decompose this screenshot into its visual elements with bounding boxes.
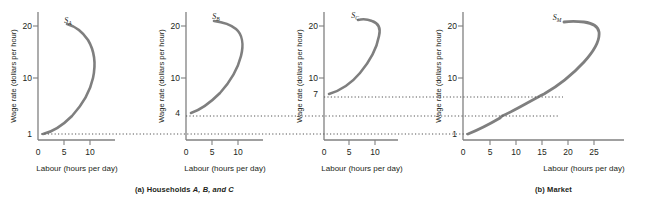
x-ticklabel-5: 5 <box>347 147 352 157</box>
y-ticklabel-4: 4 <box>175 108 180 118</box>
y-axis-title: Wage rate (dollars per hour) <box>9 29 18 123</box>
y-axis-title: Wage rate (dollars per hour) <box>434 29 443 123</box>
x-ticklabel-0: 0 <box>322 147 327 157</box>
x-ticklabel-10: 10 <box>370 147 380 157</box>
x-ticklabel-10: 10 <box>511 147 521 157</box>
panel-household-a: SA 20 10 1 0 5 10 Labour (hours per day)… <box>0 0 150 178</box>
y-ticklabel-20: 20 <box>23 21 33 31</box>
caption-a-prefix: (a) Households <box>135 185 193 194</box>
x-ticklabel-15: 15 <box>537 147 547 157</box>
y-ticklabel-10: 10 <box>448 73 458 83</box>
y-axis-title: Wage rate (dollars per hour) <box>295 29 304 123</box>
caption-panel-b: (b) Market <box>535 185 572 194</box>
caption-panel-a: (a) Households A, B, and C <box>135 185 234 194</box>
labour-supply-figure: SA 20 10 1 0 5 10 Labour (hours per day)… <box>0 0 647 208</box>
y-axis-title: Wage rate (dollars per hour) <box>157 29 166 123</box>
y-ticklabel-10: 10 <box>171 73 181 83</box>
x-axis-title: Labour (hours per day) <box>321 164 403 173</box>
x-ticklabel-5: 5 <box>210 147 215 157</box>
x-ticklabel-10: 10 <box>233 147 243 157</box>
x-ticklabel-5: 5 <box>488 147 493 157</box>
supply-curve-b <box>191 21 242 113</box>
axes-household-a <box>33 12 115 145</box>
axes-household-c <box>319 12 398 145</box>
curve-label-c: SC <box>351 11 359 21</box>
chart-household-b: SB 20 10 4 0 5 10 Labour (hours per day)… <box>150 0 288 178</box>
y-ticklabel-20: 20 <box>171 21 181 31</box>
supply-curve-a <box>43 24 94 134</box>
chart-household-a: SA 20 10 1 0 5 10 Labour (hours per day)… <box>0 0 150 178</box>
supply-curve-market <box>468 21 599 134</box>
x-ticklabel-20: 20 <box>563 147 573 157</box>
axes-household-b <box>181 12 263 145</box>
chart-market: SM 20 10 1 0 5 10 15 20 25 Labour (hours… <box>424 0 647 178</box>
caption-a-items: A, B, and C <box>193 185 234 194</box>
panel-market: SM 20 10 1 0 5 10 15 20 25 Labour (hours… <box>424 0 647 178</box>
y-ticklabel-1: 1 <box>27 129 32 139</box>
y-ticklabel-10: 10 <box>309 73 319 83</box>
panel-household-c: SC 20 10 7 0 5 10 Labour (hours per day)… <box>288 0 424 178</box>
curve-label-market: SM <box>553 13 562 23</box>
y-ticklabel-1: 1 <box>452 129 457 139</box>
x-ticklabel-0: 0 <box>184 147 189 157</box>
x-ticklabel-5: 5 <box>62 147 67 157</box>
y-ticklabel-10: 10 <box>23 73 33 83</box>
x-axis-title: Labour (hours per day) <box>543 164 625 173</box>
y-ticklabel-20: 20 <box>448 21 458 31</box>
x-ticklabel-10: 10 <box>85 147 95 157</box>
supply-curve-c <box>329 19 380 94</box>
curve-label-a: SA <box>64 16 72 26</box>
x-ticklabel-0: 0 <box>36 147 41 157</box>
panel-household-b: SB 20 10 4 0 5 10 Labour (hours per day)… <box>150 0 288 178</box>
x-axis-title: Labour (hours per day) <box>184 164 266 173</box>
x-ticklabel-0: 0 <box>461 147 466 157</box>
y-ticklabel-20: 20 <box>309 21 319 31</box>
x-ticklabel-25: 25 <box>589 147 599 157</box>
chart-household-c: SC 20 10 7 0 5 10 Labour (hours per day)… <box>288 0 424 178</box>
x-axis-title: Labour (hours per day) <box>36 164 118 173</box>
curve-label-b: SB <box>212 12 220 22</box>
y-ticklabel-7: 7 <box>313 89 318 99</box>
